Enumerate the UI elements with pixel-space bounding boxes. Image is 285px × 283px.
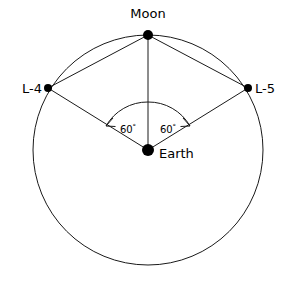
angle-arc-right — [148, 102, 190, 126]
l5-dot — [244, 84, 252, 92]
diagram-canvas: Moon Earth L-4 L-5 60° 60° — [0, 0, 285, 283]
l5-label: L-5 — [255, 81, 275, 96]
angle-right-value: 60 — [160, 124, 173, 135]
angle-left-degree-symbol: ° — [133, 123, 137, 131]
angle-left-label: 60° — [120, 123, 136, 135]
angle-right-degree-symbol: ° — [173, 123, 177, 131]
earth-dot — [142, 144, 154, 156]
line-moon-to-l4 — [48, 35, 148, 88]
line-moon-to-l5 — [148, 35, 248, 88]
lagrange-point-diagram: Moon Earth L-4 L-5 60° 60° — [0, 0, 285, 283]
angle-right-label: 60° — [160, 123, 176, 135]
line-earth-to-l4 — [48, 88, 148, 150]
earth-label: Earth — [159, 146, 194, 161]
l4-dot — [44, 84, 52, 92]
angle-arc-left — [106, 102, 148, 126]
angle-left-value: 60 — [120, 124, 133, 135]
moon-dot — [143, 30, 153, 40]
moon-label: Moon — [130, 6, 165, 21]
l4-label: L-4 — [22, 81, 42, 96]
line-earth-to-l5 — [148, 88, 248, 150]
